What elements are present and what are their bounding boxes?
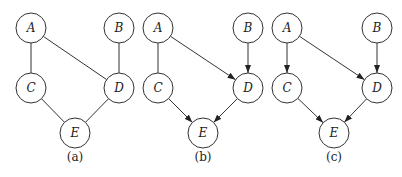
node-a: A xyxy=(272,13,302,43)
node-label: E xyxy=(198,126,208,140)
edge-c-e xyxy=(298,98,323,122)
node-label: E xyxy=(70,126,80,140)
edge-d-e xyxy=(214,99,238,123)
node-label: A xyxy=(282,21,292,35)
node-label: B xyxy=(114,21,124,35)
edge-c-e xyxy=(169,99,193,123)
edge-c-e xyxy=(41,99,64,123)
node-label: C xyxy=(282,81,291,95)
node-d: D xyxy=(233,73,263,103)
node-c: C xyxy=(272,73,302,103)
edge-a-d xyxy=(170,36,235,79)
graph-diagram: ABCDE(a)ABCDE(b)ABCDE(c) xyxy=(0,0,402,177)
node-e: E xyxy=(60,118,90,148)
node-e: E xyxy=(188,118,218,148)
node-c: C xyxy=(16,73,46,103)
panel-caption: (a) xyxy=(67,150,84,164)
node-b: B xyxy=(233,13,263,43)
node-c: C xyxy=(143,73,173,103)
node-label: B xyxy=(243,21,253,35)
node-b: B xyxy=(362,13,392,43)
panel-c: ABCDE(c) xyxy=(272,13,392,164)
node-label: D xyxy=(113,81,124,95)
node-label: B xyxy=(372,21,382,35)
edge-a-d xyxy=(299,36,364,79)
edge-d-e xyxy=(344,99,366,122)
node-e: E xyxy=(319,118,349,148)
node-label: C xyxy=(26,81,35,95)
panel-caption: (c) xyxy=(326,150,342,164)
edge-a-d xyxy=(43,36,106,79)
node-a: A xyxy=(16,13,46,43)
node-label: A xyxy=(26,21,36,35)
panel-caption: (b) xyxy=(194,150,211,164)
node-label: A xyxy=(153,21,163,35)
edge-d-e xyxy=(85,99,108,123)
node-label: C xyxy=(153,81,162,95)
node-label: E xyxy=(329,126,339,140)
node-a: A xyxy=(143,13,173,43)
node-d: D xyxy=(104,73,134,103)
node-label: D xyxy=(242,81,253,95)
panel-b: ABCDE(b) xyxy=(143,13,263,164)
node-d: D xyxy=(362,73,392,103)
node-b: B xyxy=(104,13,134,43)
node-label: D xyxy=(371,81,382,95)
panel-a: ABCDE(a) xyxy=(16,13,134,164)
